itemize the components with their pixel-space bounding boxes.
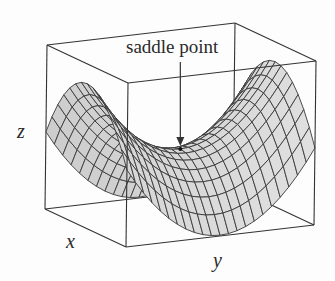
arrowhead-icon [176,137,184,146]
y-axis-label: y [213,249,222,272]
saddle-point-label: saddle point [126,36,218,58]
z-axis-label: z [17,120,25,143]
saddle-point-arrow [176,62,184,151]
box-edge [314,61,316,225]
box-edge [45,209,126,247]
box-edge [235,23,316,61]
x-axis-label: x [66,230,75,253]
saddle-point-marker [178,147,182,151]
box-edge [45,45,47,209]
box-edge [47,45,128,83]
saddle-figure: saddle point z x y [0,0,335,281]
